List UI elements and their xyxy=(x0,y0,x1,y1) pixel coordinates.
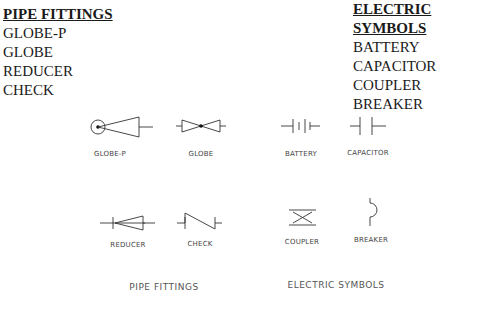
battery-icon xyxy=(281,119,320,133)
globe-valve-icon xyxy=(176,120,226,132)
check-label: CHECK xyxy=(187,240,212,248)
globe-p-valve-icon xyxy=(91,117,153,137)
battery-label: BATTERY xyxy=(285,150,317,158)
reducer-label: REDUCER xyxy=(110,241,145,249)
check-valve-icon xyxy=(177,213,222,229)
electric-symbols-caption: ELECTRIC SYMBOLS xyxy=(287,280,384,290)
capacitor-label: CAPACITOR xyxy=(347,149,389,157)
globe-p-label: GLOBE-P xyxy=(94,150,126,158)
reducer-icon xyxy=(100,216,155,230)
capacitor-icon xyxy=(350,117,386,135)
globe-label: GLOBE xyxy=(189,150,214,158)
symbol-drawing xyxy=(0,0,497,310)
coupler-icon xyxy=(289,210,316,225)
breaker-icon xyxy=(370,198,377,226)
pipe-fittings-caption: PIPE FITTINGS xyxy=(129,282,198,292)
breaker-label: BREAKER xyxy=(354,236,388,244)
coupler-label: COUPLER xyxy=(285,238,319,246)
